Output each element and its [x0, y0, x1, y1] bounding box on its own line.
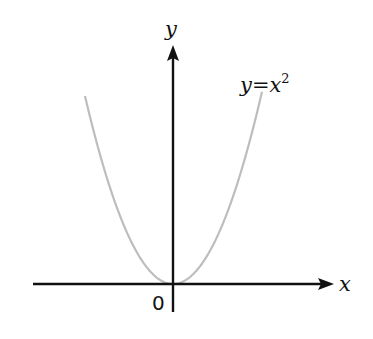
parabola-graph: x y 0 y=x2 [0, 0, 373, 339]
y-axis-label: y [164, 17, 178, 41]
origin-label: 0 [152, 291, 165, 315]
curve-equation-label: y=x2 [239, 71, 290, 97]
x-axis-label: x [339, 272, 351, 296]
